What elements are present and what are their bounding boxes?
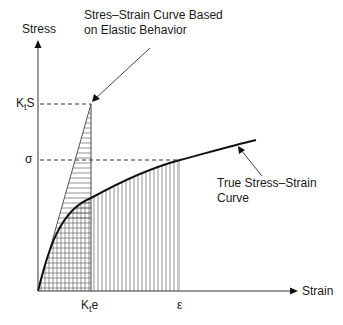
y-tick-kts-tail: S <box>27 96 35 110</box>
y-tick-kts-sub: t <box>24 102 27 112</box>
x-axis-arrow-icon <box>290 288 298 295</box>
elastic-pointer-line <box>96 48 150 98</box>
x-tick-kte-main: K <box>81 298 89 312</box>
true-pointer-line <box>241 150 262 176</box>
x-tick-kte-tail: e <box>92 298 99 312</box>
x-tick-kte: Kte <box>81 298 98 313</box>
true-annotation-line2: Curve <box>217 191 249 205</box>
y-axis-arrow-icon <box>35 40 42 48</box>
true-curve-grid-hatch <box>38 203 91 218</box>
x-tick-kte-sub: t <box>89 304 92 314</box>
x-tick-epsilon: ε <box>177 298 182 312</box>
elastic-annotation-line2: on Elastic Behavior <box>84 23 187 37</box>
y-tick-kts-main: K <box>16 96 24 110</box>
y-tick-sigma: σ <box>25 152 32 166</box>
y-tick-kts: KtS <box>16 96 35 111</box>
y-axis-label: Stress <box>22 22 56 36</box>
stress-strain-diagram <box>0 0 343 325</box>
elastic-annotation-line1: Stres–Strain Curve Based <box>84 8 223 22</box>
true-pointer-arrow-icon <box>238 146 245 154</box>
true-energy-hatch <box>41 100 180 291</box>
true-annotation-line1: True Stress–Strain <box>217 176 317 190</box>
x-axis-label: Strain <box>302 284 333 298</box>
